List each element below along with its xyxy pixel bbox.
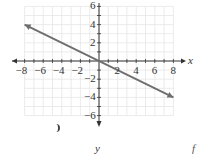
y-tick-label: 6 bbox=[90, 0, 96, 11]
y-tick-label: −4 bbox=[84, 91, 96, 102]
x-axis-label: x bbox=[188, 55, 193, 66]
x-tick-label: 8 bbox=[170, 65, 176, 76]
coordinate-plot bbox=[0, 0, 200, 157]
y-tick-label: −6 bbox=[84, 110, 96, 121]
y-tick-label: −2 bbox=[84, 73, 96, 84]
y-axis-label: y bbox=[95, 143, 100, 154]
y-tick-label: 2 bbox=[90, 37, 96, 48]
x-tick-label: −4 bbox=[53, 65, 65, 76]
y-tick-label: 4 bbox=[90, 19, 96, 30]
x-axis-right-arrow-icon bbox=[181, 59, 186, 64]
corner-label: f bbox=[192, 143, 195, 154]
x-tick-label: −6 bbox=[34, 65, 46, 76]
x-tick-label: −2 bbox=[71, 65, 83, 76]
y-axis-down-arrow-icon bbox=[97, 121, 102, 127]
x-tick-label: 6 bbox=[152, 65, 158, 76]
x-axis-left-arrow-icon bbox=[12, 59, 17, 64]
x-tick-label: 4 bbox=[133, 65, 139, 76]
x-tick-label: −8 bbox=[16, 65, 28, 76]
x-tick-label: 2 bbox=[115, 65, 121, 76]
